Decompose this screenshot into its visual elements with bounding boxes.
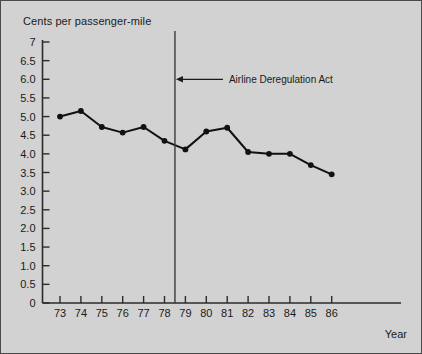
x-tick-label: 84 bbox=[284, 307, 296, 319]
arrow-left-icon bbox=[176, 76, 183, 82]
data-point-marker bbox=[120, 130, 126, 136]
x-tick-label: 77 bbox=[137, 307, 149, 319]
y-tick-label: 1.5 bbox=[20, 241, 35, 253]
x-tick-label: 76 bbox=[117, 307, 129, 319]
y-tick-label: 3.5 bbox=[20, 167, 35, 179]
y-tick-label: 1.0 bbox=[20, 260, 35, 272]
x-tick-label: 80 bbox=[200, 307, 212, 319]
data-point-marker bbox=[57, 114, 63, 120]
annotation-label: Airline Deregulation Act bbox=[229, 74, 333, 85]
x-tick-label: 82 bbox=[242, 307, 254, 319]
y-tick-label: 5.0 bbox=[20, 111, 35, 123]
x-tick-label: 74 bbox=[75, 307, 87, 319]
x-tick-label: 83 bbox=[263, 307, 275, 319]
data-point-marker bbox=[78, 108, 84, 114]
data-point-marker bbox=[266, 151, 272, 157]
chart-figure: Cents per passenger-mile 76.56.05.55.04.… bbox=[0, 0, 422, 354]
data-point-marker bbox=[162, 138, 168, 144]
data-point-marker bbox=[287, 151, 293, 157]
x-tick-label: 75 bbox=[96, 307, 108, 319]
y-tick-label: 3.0 bbox=[20, 185, 35, 197]
x-tick-label: 85 bbox=[305, 307, 317, 319]
y-axis: 76.56.05.55.04.54.03.53.02.52.01.51.00.5… bbox=[20, 36, 49, 309]
y-tick-label: 7 bbox=[29, 36, 35, 48]
x-tick-label: 86 bbox=[326, 307, 338, 319]
y-tick-label: 2.0 bbox=[20, 222, 35, 234]
line-chart-canvas: 76.56.05.55.04.54.03.53.02.52.01.51.00.5… bbox=[1, 1, 422, 354]
y-tick-label: 0.5 bbox=[20, 278, 35, 290]
x-tick-label: 78 bbox=[158, 307, 170, 319]
y-tick-label: 0 bbox=[29, 297, 35, 309]
data-point-marker bbox=[203, 129, 209, 135]
y-tick-label: 4.0 bbox=[20, 148, 35, 160]
x-tick-label: 79 bbox=[179, 307, 191, 319]
data-point-marker bbox=[99, 124, 105, 130]
data-point-marker bbox=[141, 124, 147, 130]
y-tick-label: 5.5 bbox=[20, 92, 35, 104]
data-point-marker bbox=[224, 125, 230, 131]
y-tick-label: 4.5 bbox=[20, 129, 35, 141]
x-axis: 7374757677787980818283848586 bbox=[43, 296, 402, 319]
data-point-marker bbox=[183, 146, 189, 152]
data-point-marker bbox=[308, 162, 314, 168]
x-tick-label: 81 bbox=[221, 307, 233, 319]
data-point-marker bbox=[329, 171, 335, 177]
x-axis-label: Year bbox=[385, 328, 407, 340]
y-tick-label: 6.0 bbox=[20, 73, 35, 85]
data-series-line bbox=[57, 108, 335, 177]
y-tick-label: 2.5 bbox=[20, 204, 35, 216]
y-tick-label: 6.5 bbox=[20, 55, 35, 67]
data-point-marker bbox=[245, 149, 251, 155]
x-tick-label: 73 bbox=[54, 307, 66, 319]
